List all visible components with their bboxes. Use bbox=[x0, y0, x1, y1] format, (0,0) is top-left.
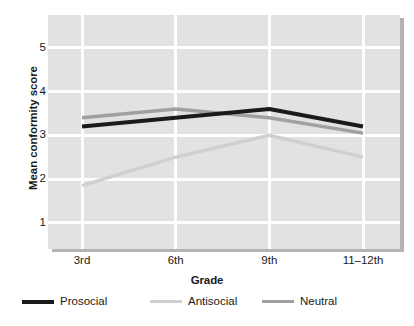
legend-label: Prosocial bbox=[60, 296, 107, 308]
x-axis-title: Grade bbox=[0, 274, 414, 286]
y-tick-label: 4 bbox=[30, 86, 46, 98]
plot-panel bbox=[48, 15, 400, 249]
legend-item-neutral[interactable]: Neutral bbox=[262, 296, 337, 308]
series-line-antisocial bbox=[82, 135, 363, 185]
legend-swatch-icon bbox=[150, 300, 182, 303]
legend-label: Neutral bbox=[300, 296, 337, 308]
y-tick-label: 1 bbox=[30, 217, 46, 229]
chart-legend: ProsocialAntisocialNeutral bbox=[0, 296, 414, 320]
x-tick-label: 3rd bbox=[74, 255, 91, 267]
x-tick-label: 9th bbox=[261, 255, 277, 267]
legend-item-antisocial[interactable]: Antisocial bbox=[150, 296, 237, 308]
series-line-prosocial bbox=[82, 109, 363, 126]
legend-swatch-icon bbox=[22, 300, 54, 304]
legend-label: Antisocial bbox=[188, 296, 237, 308]
legend-swatch-icon bbox=[262, 300, 294, 303]
legend-item-prosocial[interactable]: Prosocial bbox=[22, 296, 107, 308]
y-tick-label: 5 bbox=[30, 42, 46, 54]
y-tick-label: 2 bbox=[30, 173, 46, 185]
x-tick-label: 6th bbox=[168, 255, 184, 267]
plot-lines bbox=[48, 15, 400, 249]
chart-figure: Mean conformity score 12345 3rd6th9th11–… bbox=[0, 0, 414, 326]
y-tick-label: 3 bbox=[30, 129, 46, 141]
x-tick-label: 11–12th bbox=[343, 255, 384, 267]
x-axis-tick-labels: 3rd6th9th11–12th bbox=[0, 255, 414, 273]
